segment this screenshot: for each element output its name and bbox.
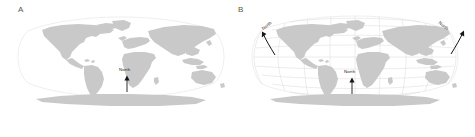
panel-b: B [238, 0, 475, 137]
map-a-landmasses [36, 20, 225, 106]
panel-a-map: North [0, 0, 237, 137]
north-arrow-b-center [349, 78, 354, 95]
figure-two-panel-world-maps: A [0, 0, 475, 137]
panel-a: A [0, 0, 237, 137]
north-label-b-center: North [344, 70, 355, 74]
north-label-a-center: North [119, 68, 130, 72]
panel-b-map: North North North [238, 0, 475, 137]
north-arrow-b-left [262, 32, 275, 56]
